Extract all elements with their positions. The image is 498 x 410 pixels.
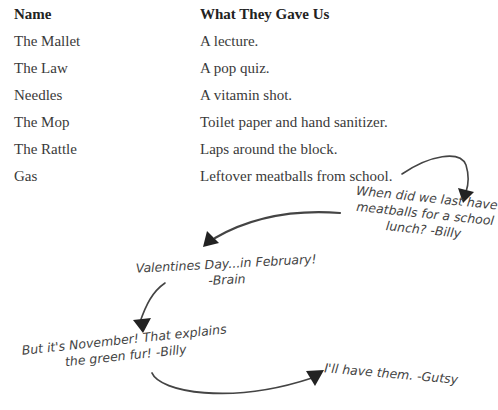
arrow-1-curve	[402, 156, 468, 192]
arrow-2-curve	[215, 212, 340, 238]
arrow-head-icon	[203, 231, 219, 247]
arrow-head-icon	[306, 370, 324, 386]
arrow-4-curve	[152, 373, 312, 393]
